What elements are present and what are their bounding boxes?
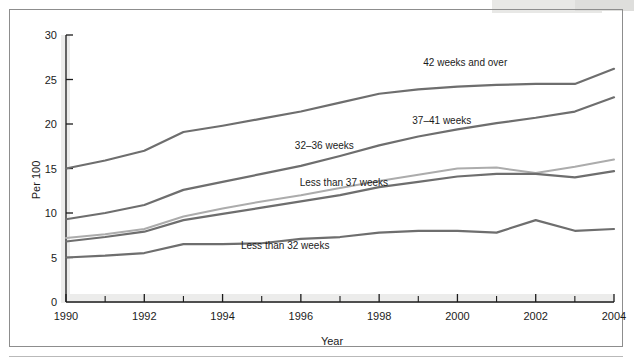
line-chart: 051015202530 199019921994199619982000200… xyxy=(0,0,634,364)
x-tick-label: 2004 xyxy=(602,310,626,322)
series-annotation-2: 32–36 weeks xyxy=(295,140,354,151)
x-tick-label: 2002 xyxy=(523,310,547,322)
series-line-2 xyxy=(66,160,614,238)
y-axis-title: Per 100 xyxy=(30,161,42,200)
x-tick-label: 1998 xyxy=(367,310,391,322)
series-annotation-3: Less than 37 weeks xyxy=(300,177,388,188)
page-bottom-rule xyxy=(9,356,623,357)
y-tick-label: 0 xyxy=(51,296,57,308)
series-line-1 xyxy=(66,97,614,219)
x-tick-label: 1996 xyxy=(289,310,313,322)
y-tick-label: 10 xyxy=(45,207,57,219)
series-annotation-0: 42 weeks and over xyxy=(423,57,508,68)
x-tick-label: 1990 xyxy=(54,310,78,322)
x-axis-title: Year xyxy=(321,335,344,347)
x-ticks-group: 19901992199419961998200020022004 xyxy=(54,294,626,322)
x-tick-label: 1992 xyxy=(132,310,156,322)
series-group xyxy=(66,69,614,258)
y-tick-label: 30 xyxy=(45,29,57,41)
y-tick-label: 15 xyxy=(45,163,57,175)
y-tick-label: 25 xyxy=(45,74,57,86)
y-tick-label: 20 xyxy=(45,118,57,130)
series-line-4 xyxy=(66,220,614,257)
chart-page: 051015202530 199019921994199619982000200… xyxy=(0,0,634,364)
axis-group xyxy=(66,35,614,302)
y-tick-label: 5 xyxy=(51,252,57,264)
series-annotation-1: 37–41 weeks xyxy=(412,115,471,126)
series-annotation-4: Less than 32 weeks xyxy=(241,240,329,251)
x-tick-label: 1994 xyxy=(210,310,234,322)
x-tick-label: 2000 xyxy=(445,310,469,322)
